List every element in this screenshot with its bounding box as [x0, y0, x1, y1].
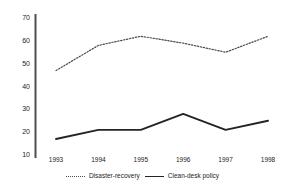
legend-label-clean-desk-policy: Clean-desk policy [168, 172, 219, 179]
x-tick-label: 1996 [168, 156, 198, 164]
series-line-clean-desk-policy [56, 114, 268, 139]
series-line-disaster-recovery [56, 36, 268, 70]
y-tick-label: 40 [8, 83, 30, 91]
y-tick-label: 20 [8, 128, 30, 136]
chart-legend: Disaster-recovery Clean-desk policy [0, 168, 285, 182]
y-tick-label: 30 [8, 105, 30, 113]
x-tick-label: 1994 [83, 156, 113, 164]
dotted-line-swatch-icon [66, 173, 85, 177]
legend-entry-clean-desk-policy: Clean-desk policy [145, 172, 219, 179]
line-chart: 70605040302010 199319941995199619971998 … [0, 0, 285, 188]
x-tick-label: 1993 [41, 156, 71, 164]
plot-area: 70605040302010 199319941995199619971998 [0, 0, 285, 188]
legend-label-disaster-recovery: Disaster-recovery [89, 172, 140, 179]
x-tick-label: 1995 [126, 156, 156, 164]
y-tick-label: 10 [8, 151, 30, 159]
x-tick-label: 1997 [211, 156, 241, 164]
y-tick-label: 60 [8, 37, 30, 45]
legend-entry-disaster-recovery: Disaster-recovery [66, 172, 140, 179]
solid-line-swatch-icon [145, 173, 164, 177]
y-tick-label: 70 [8, 14, 30, 22]
y-tick-label: 50 [8, 60, 30, 68]
x-tick-label: 1998 [253, 156, 283, 164]
